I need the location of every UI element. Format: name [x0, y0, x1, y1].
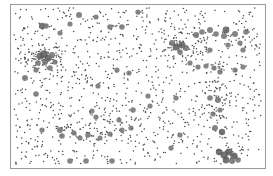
- data-point: [97, 22, 99, 24]
- data-point: [192, 45, 194, 47]
- data-point: [88, 125, 90, 127]
- data-point: [201, 104, 203, 106]
- data-point: [146, 108, 148, 110]
- data-point: [43, 78, 45, 80]
- data-point: [125, 130, 127, 132]
- data-point: [233, 121, 235, 123]
- data-point: [214, 158, 216, 160]
- data-point: [254, 90, 256, 92]
- data-point: [167, 131, 169, 133]
- data-point: [176, 163, 178, 165]
- data-point: [126, 87, 128, 89]
- data-point: [145, 32, 147, 34]
- data-point: [245, 56, 247, 58]
- data-point: [160, 28, 162, 30]
- data-point: [92, 26, 94, 28]
- data-point: [115, 26, 117, 28]
- data-point: [255, 89, 257, 91]
- data-point: [107, 161, 109, 163]
- data-point: [127, 20, 129, 22]
- data-point: [72, 52, 74, 54]
- data-point: [96, 102, 98, 104]
- data-point: [184, 126, 186, 128]
- large-data-point: [173, 95, 178, 100]
- data-point: [170, 18, 172, 20]
- data-point: [248, 12, 250, 14]
- data-point: [81, 74, 83, 76]
- data-point: [61, 92, 63, 94]
- data-point: [75, 135, 77, 137]
- data-point: [48, 16, 50, 18]
- data-point: [143, 148, 145, 150]
- data-point: [173, 143, 175, 145]
- data-point: [91, 135, 93, 137]
- data-point: [62, 106, 64, 108]
- data-point: [135, 146, 137, 148]
- data-point: [128, 101, 130, 103]
- data-point: [201, 40, 203, 42]
- data-point: [156, 57, 158, 59]
- data-point: [27, 33, 29, 35]
- data-point: [76, 64, 78, 66]
- data-point: [62, 150, 64, 152]
- data-point: [202, 15, 204, 17]
- data-point: [214, 80, 216, 82]
- data-point: [48, 122, 50, 124]
- data-point: [163, 49, 165, 51]
- data-point: [185, 57, 187, 59]
- data-point: [121, 162, 123, 164]
- data-point: [123, 77, 125, 79]
- data-point: [259, 94, 261, 96]
- data-point: [172, 123, 174, 125]
- data-point: [188, 108, 190, 110]
- data-point: [52, 157, 54, 159]
- data-point: [158, 69, 160, 71]
- data-point: [108, 31, 110, 33]
- data-point: [229, 81, 231, 83]
- data-point: [237, 94, 239, 96]
- data-point: [226, 87, 228, 89]
- data-point: [254, 104, 256, 106]
- data-point: [17, 72, 19, 74]
- data-point: [159, 119, 161, 121]
- data-point: [196, 51, 198, 53]
- data-point: [214, 109, 216, 111]
- data-point: [163, 33, 165, 35]
- data-point: [87, 19, 89, 21]
- data-point: [29, 125, 31, 127]
- data-point: [113, 105, 115, 107]
- data-point: [61, 37, 63, 39]
- data-point: [122, 105, 124, 107]
- data-point: [69, 7, 71, 9]
- data-point: [20, 9, 22, 11]
- data-point: [119, 43, 121, 45]
- data-point: [173, 101, 175, 103]
- data-point: [165, 13, 167, 15]
- data-point: [54, 46, 56, 48]
- large-data-point: [177, 49, 183, 55]
- data-point: [75, 71, 77, 73]
- data-point: [140, 118, 142, 120]
- data-point: [192, 50, 194, 52]
- data-point: [194, 15, 196, 17]
- data-point: [219, 66, 221, 68]
- data-point: [171, 137, 173, 139]
- data-point: [245, 65, 247, 67]
- data-point: [93, 155, 95, 157]
- large-data-point: [77, 135, 82, 140]
- data-point: [159, 127, 161, 129]
- data-point: [28, 48, 30, 50]
- data-point: [15, 114, 17, 116]
- data-point: [223, 69, 225, 71]
- scatter-plot-canvas: [0, 0, 273, 176]
- data-point: [26, 9, 28, 11]
- data-point: [56, 83, 58, 85]
- large-data-point: [135, 9, 140, 14]
- data-point: [147, 152, 149, 154]
- data-point: [41, 82, 43, 84]
- data-point: [141, 131, 143, 133]
- data-point: [104, 156, 106, 158]
- data-point: [204, 46, 206, 48]
- data-point: [196, 96, 198, 98]
- data-point: [150, 48, 152, 50]
